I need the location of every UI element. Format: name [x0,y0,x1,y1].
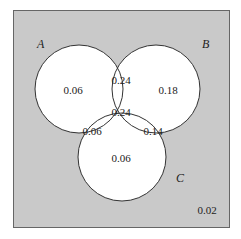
region-abc: 0.24 [111,106,131,118]
region-outside: 0.02 [197,204,216,216]
region-b-only: 0.18 [158,84,178,96]
venn-diagram: A B C 0.06 0.18 0.24 0.24 0.06 0.14 0.06… [0,0,241,239]
set-label-a: A [36,37,45,51]
region-ac-only: 0.06 [82,125,102,137]
region-ab-only: 0.24 [111,74,131,86]
set-label-b: B [202,37,210,51]
set-label-c: C [176,171,185,185]
region-a-only: 0.06 [63,84,83,96]
region-bc-only: 0.14 [143,125,163,137]
region-c-only: 0.06 [111,152,131,164]
